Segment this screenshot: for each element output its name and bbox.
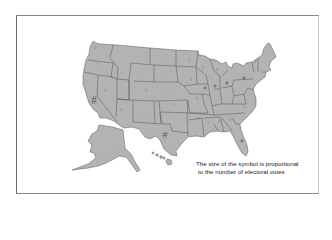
svg-text:#: # <box>218 120 220 124</box>
caption: The size of the symbol is proportional t… <box>196 160 299 176</box>
svg-text:#: # <box>243 75 246 81</box>
hawaii <box>152 152 172 165</box>
svg-text:#: # <box>196 97 198 101</box>
svg-text:#: # <box>241 138 244 144</box>
svg-text:#: # <box>226 80 229 86</box>
alaska <box>72 125 140 172</box>
caption-line-2: to the number of electoral votes <box>196 168 299 176</box>
svg-text:#: # <box>91 95 97 106</box>
svg-text:#: # <box>162 130 167 140</box>
caption-line-1: The size of the symbol is proportional <box>196 160 299 168</box>
